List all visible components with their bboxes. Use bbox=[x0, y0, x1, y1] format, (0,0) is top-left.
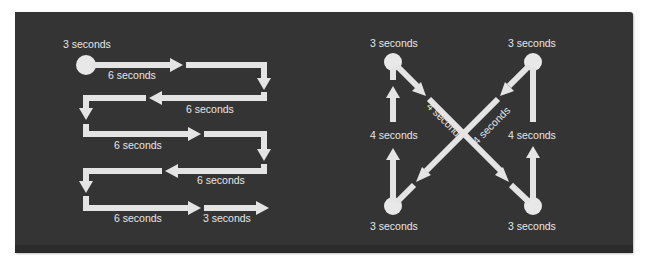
arrowhead-up-icon bbox=[526, 146, 540, 158]
segment-label-4: 6 seconds bbox=[197, 174, 245, 186]
arrow-row2-b bbox=[86, 98, 146, 110]
diag-down-left-label: 4 seconds bbox=[470, 104, 512, 146]
segment-label-5: 6 seconds bbox=[114, 212, 162, 224]
arrow-row2-a bbox=[160, 92, 264, 98]
arrowhead-right-icon bbox=[188, 201, 201, 215]
arrowhead-up-icon bbox=[386, 86, 400, 98]
segment-label-3: 6 seconds bbox=[114, 139, 162, 151]
arrow-row4-a bbox=[176, 164, 264, 171]
arrowhead-left-icon bbox=[165, 164, 178, 178]
arrowhead-left-icon bbox=[149, 91, 162, 105]
start-label: 3 seconds bbox=[63, 38, 111, 50]
segment-label-2: 6 seconds bbox=[186, 103, 234, 115]
bottom-left-label: 3 seconds bbox=[370, 220, 418, 232]
right-side-label: 4 seconds bbox=[508, 129, 556, 141]
arrowhead-down-icon bbox=[79, 108, 93, 120]
diag-down-right-label: 4 seconds bbox=[425, 100, 467, 142]
arrowhead-up-icon bbox=[386, 148, 400, 160]
segment-label-1: 6 seconds bbox=[108, 69, 156, 81]
arrow-row3-a bbox=[86, 124, 190, 134]
arrowhead-down-icon bbox=[257, 78, 271, 90]
arrow-row5-a bbox=[86, 196, 190, 208]
serpentine-diagram: 3 seconds 6 seconds 6 seconds 6 seconds … bbox=[63, 38, 271, 224]
arrowhead-down-icon bbox=[257, 149, 271, 161]
diag-tr-arrow bbox=[509, 66, 529, 86]
arrowhead-down-icon bbox=[79, 181, 93, 193]
top-right-label: 3 seconds bbox=[508, 37, 556, 49]
arrow-row1-b bbox=[186, 65, 264, 80]
arrowhead-right-icon bbox=[170, 58, 183, 72]
diag-br-stub bbox=[511, 185, 529, 202]
segment-label-6: 3 seconds bbox=[203, 212, 251, 224]
diag-tl-arrow bbox=[397, 66, 418, 87]
arrowhead-right-icon bbox=[188, 127, 201, 141]
arrowhead-right-icon bbox=[256, 201, 269, 215]
arrow-row4-b bbox=[86, 171, 162, 183]
diag-bl-stub bbox=[397, 185, 414, 202]
left-side-label: 4 seconds bbox=[370, 129, 418, 141]
arrow-row3-b bbox=[204, 134, 264, 151]
bottom-right-label: 3 seconds bbox=[508, 220, 556, 232]
top-left-label: 3 seconds bbox=[370, 37, 418, 49]
x-pattern-diagram: 3 seconds 3 seconds 3 seconds 3 seconds … bbox=[370, 37, 556, 232]
diagram-canvas: 3 seconds 6 seconds 6 seconds 6 seconds … bbox=[0, 0, 645, 269]
